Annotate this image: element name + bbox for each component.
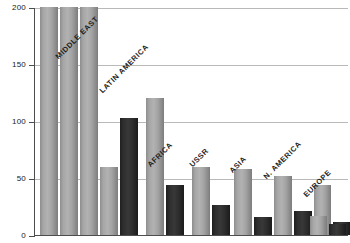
y-axis-label-150: 150 <box>0 60 26 69</box>
bar-4-middle-east <box>120 118 138 235</box>
bar-6-latin-america <box>166 185 184 235</box>
bar-3 <box>100 167 118 235</box>
bar-9 <box>234 169 252 235</box>
x-axis-line <box>34 235 348 236</box>
y-tick-0 <box>29 236 34 237</box>
y-axis-label-50: 50 <box>0 174 26 183</box>
bar-7 <box>192 167 210 235</box>
plot-area: 050100150200 <box>34 8 348 236</box>
bar-15 <box>310 216 327 235</box>
bar-0 <box>40 7 58 235</box>
y-tick-100 <box>29 122 34 123</box>
y-axis-label-0: 0 <box>0 231 26 240</box>
bar-16-europe <box>329 224 346 235</box>
y-axis-line <box>34 8 35 237</box>
y-tick-50 <box>29 179 34 180</box>
y-tick-150 <box>29 65 34 66</box>
bar-11 <box>274 176 292 235</box>
y-tick-200 <box>29 8 34 9</box>
bar-10-ussr <box>254 217 272 235</box>
bar-2 <box>80 7 98 235</box>
y-axis-label-200: 200 <box>0 3 26 12</box>
y-axis-labels: 050100150200 <box>0 8 28 237</box>
bar-chart: 050100150200 MIDDLE EASTLATIN AMERICAAFR… <box>0 0 350 243</box>
bar-8-africa <box>212 205 230 235</box>
y-axis-label-100: 100 <box>0 117 26 126</box>
